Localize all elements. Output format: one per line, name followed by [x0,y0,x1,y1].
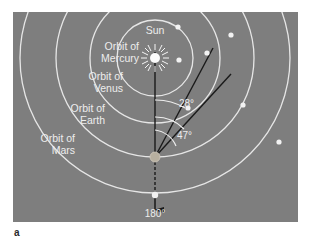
planet-dot-mars-orbit-right [240,102,245,107]
orbit-label-earth-line1: Orbit of [71,102,106,114]
orbit-diagram-svg: Sun Orbit of Mercury Orbit of Venus Orbi… [13,12,298,222]
angle-label-180: 180° [145,208,166,219]
planet-dot-opposition [152,192,158,198]
angle-label-47: 47° [177,130,192,141]
planet-dot-mars-orbit-lower [276,139,281,144]
orbit-label-mars-line2: Mars [52,144,75,156]
planet-dot-venus-upper [175,24,180,29]
orbit-label-venus-line1: Orbit of [89,70,124,82]
orbit-label-mercury-line1: Orbit of [105,40,140,52]
figure-caption-a: a [14,227,20,238]
orbit-label-venus-line2: Venus [94,82,123,94]
orbit-label-earth-line2: Earth [80,114,105,126]
sun-glyph [141,44,169,72]
planet-dot-mercury [176,57,181,62]
orbit-label-mars-line1: Orbit of [41,132,76,144]
planet-dot-earth-orbit-upper [204,50,209,55]
figure-root: Sun Orbit of Mercury Orbit of Venus Orbi… [0,0,318,241]
earth-observer-dot [150,152,160,162]
orbit-label-mercury-line2: Mercury [101,52,140,64]
sun-label: Sun [146,24,165,36]
orbit-diagram-panel: Sun Orbit of Mercury Orbit of Venus Orbi… [13,12,298,222]
planet-dot-mars-orbit-upper [228,32,233,37]
angle-label-28: 28° [179,98,194,109]
